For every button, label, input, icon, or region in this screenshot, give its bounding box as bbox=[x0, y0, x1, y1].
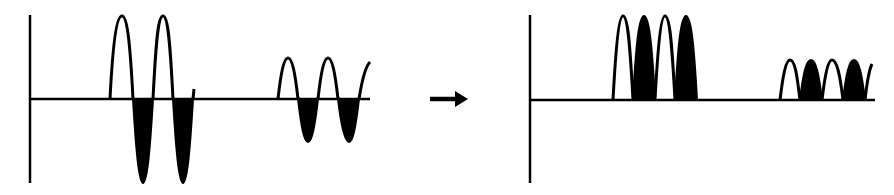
input-small-wave bbox=[278, 58, 370, 99]
input-large-negative-lobe-1 bbox=[133, 99, 153, 183]
output-small-filled-lobe-2 bbox=[843, 60, 865, 100]
right-arrow-icon bbox=[430, 91, 468, 107]
rectification-diagram bbox=[0, 0, 894, 195]
output-large-filled-lobe-1 bbox=[633, 16, 655, 100]
output-small-filled-lobe-1 bbox=[800, 60, 822, 100]
input-small-negative-lobe-1 bbox=[298, 99, 318, 142]
output-panel bbox=[530, 15, 875, 183]
input-large-negative-lobe-2 bbox=[173, 99, 193, 183]
input-large-wave bbox=[110, 16, 194, 99]
input-panel bbox=[30, 15, 370, 183]
input-small-negative-lobe-2 bbox=[338, 99, 359, 142]
output-large-filled-lobe-2 bbox=[675, 16, 697, 100]
